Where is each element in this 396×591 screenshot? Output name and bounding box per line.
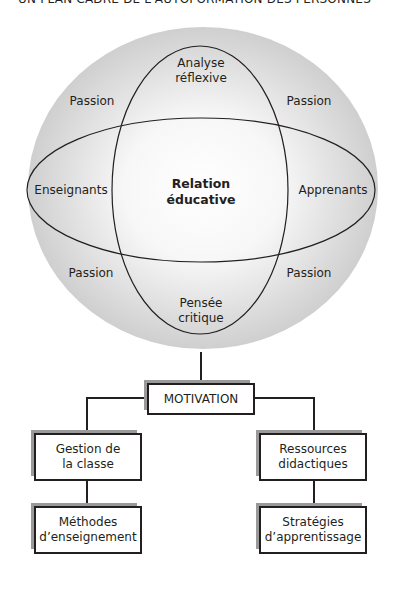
box-ressources-didactiques: Ressourcesdidactiques bbox=[259, 433, 367, 481]
label-passion-bottom-left: Passion bbox=[69, 266, 114, 281]
label-apprenants: Apprenants bbox=[298, 183, 367, 198]
box-motivation: MOTIVATION bbox=[147, 383, 255, 415]
label-analyse-reflexive: Analyseréflexive bbox=[175, 56, 227, 86]
label-passion-top-right: Passion bbox=[287, 94, 332, 109]
box-strategies-apprentissage: Stratégiesd’apprentissage bbox=[259, 506, 367, 554]
connector-left-down bbox=[86, 397, 88, 434]
label-relation-educative: Relationéducative bbox=[166, 176, 235, 208]
box-gestion-classe: Gestion dela classe bbox=[34, 433, 142, 481]
box-methodes-enseignement: Méthodesd’enseignement bbox=[34, 506, 142, 554]
connector-right-down bbox=[313, 397, 315, 434]
label-pensee-critique: Penséecritique bbox=[178, 296, 224, 326]
connector-motivation-left bbox=[86, 397, 148, 399]
connector-sphere-motivation bbox=[200, 352, 202, 383]
label-passion-bottom-right: Passion bbox=[287, 266, 332, 281]
label-passion-top-left: Passion bbox=[70, 94, 115, 109]
label-enseignants: Enseignants bbox=[34, 183, 107, 198]
connector-motivation-right bbox=[253, 397, 315, 399]
